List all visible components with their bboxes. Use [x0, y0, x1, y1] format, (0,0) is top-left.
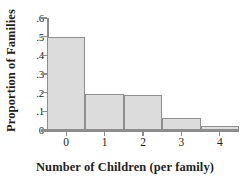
x-axis-tick-label: 1 [102, 136, 108, 148]
plot-area [47, 18, 239, 130]
y-axis-tick-mark [41, 17, 47, 18]
x-axis-title: Number of Children (per family) [0, 160, 250, 175]
histogram-chart: Proportion of Families 0.1.2.3.4.5.6 012… [0, 0, 250, 185]
bar [162, 118, 200, 130]
x-axis-tick-label: 0 [63, 136, 69, 148]
bar [124, 95, 162, 130]
bar [85, 94, 123, 130]
x-axis-tick-labels: 01234 [47, 136, 239, 152]
y-axis-title-text: Proportion of Families [4, 9, 19, 132]
y-axis-tick-labels: 0.1.2.3.4.5.6 [20, 12, 46, 130]
x-axis-line [41, 130, 239, 132]
y-axis-title: Proportion of Families [0, 0, 22, 140]
x-axis-tick-label: 3 [179, 136, 185, 148]
x-axis-tick-label: 4 [217, 136, 223, 148]
bar [47, 37, 85, 130]
x-axis-tick-label: 2 [140, 136, 146, 148]
